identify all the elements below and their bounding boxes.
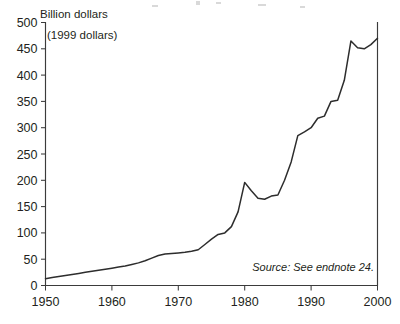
y-tick-label: 0 bbox=[31, 279, 38, 293]
source-note: Source: See endnote 24. bbox=[252, 261, 374, 273]
y-tick-label: 200 bbox=[17, 174, 38, 188]
x-tick-label: 1950 bbox=[32, 295, 60, 309]
y-tick-label: 100 bbox=[17, 226, 38, 240]
data-series-line bbox=[46, 38, 378, 278]
y-tick-label: 350 bbox=[17, 95, 38, 109]
y-tick-label: 150 bbox=[17, 200, 38, 214]
y-axis-ticks bbox=[41, 23, 46, 286]
x-tick-label: 1980 bbox=[231, 295, 259, 309]
x-tick-label: 2000 bbox=[364, 295, 392, 309]
y-axis-tick-labels: 050100150200250300350400450500 bbox=[17, 16, 38, 293]
axis-frame bbox=[46, 23, 378, 286]
y-tick-label: 450 bbox=[17, 42, 38, 56]
x-tick-label: 1970 bbox=[164, 295, 192, 309]
line-chart-svg: 050100150200250300350400450500 195019601… bbox=[0, 0, 400, 324]
x-axis-tick-labels: 195019601970198019902000 bbox=[32, 295, 392, 309]
y-tick-label: 400 bbox=[17, 69, 38, 83]
chart-figure: 050100150200250300350400450500 195019601… bbox=[0, 0, 400, 324]
y-tick-label: 250 bbox=[17, 148, 38, 162]
y-tick-label: 300 bbox=[17, 121, 38, 135]
y-axis-title: Billion dollars bbox=[40, 8, 108, 20]
scan-artifacts bbox=[152, 1, 305, 8]
y-tick-label: 50 bbox=[24, 253, 38, 267]
x-tick-label: 1990 bbox=[297, 295, 325, 309]
x-axis-ticks bbox=[46, 286, 378, 291]
units-note: (1999 dollars) bbox=[47, 29, 117, 41]
y-tick-label: 500 bbox=[17, 16, 38, 30]
x-tick-label: 1960 bbox=[98, 295, 126, 309]
